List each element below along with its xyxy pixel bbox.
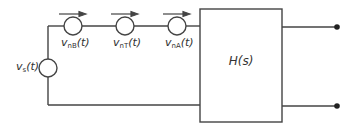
noise-label-a: vnA(t) [165,36,194,50]
noise-source-b-icon [64,17,82,35]
source-label: vs(t) [16,60,39,74]
noise-model-diagram: vs(t) vnB(t) vnT(t) vnA(t) H(s) [0,0,360,128]
noise-source-t-icon [116,17,134,35]
transfer-function-label: H(s) [200,54,282,68]
noise-label-b: vnB(t) [61,36,90,50]
signal-source-icon [39,59,57,77]
output-terminal-top-icon [334,24,340,30]
circuit-lines [0,0,360,128]
output-terminal-bottom-icon [334,103,340,109]
noise-source-a-icon [168,17,186,35]
noise-label-t: vnT(t) [113,36,141,50]
